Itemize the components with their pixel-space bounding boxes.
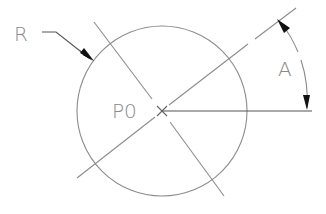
center-point-label: P0 <box>112 99 137 123</box>
angle-arrow-top-icon <box>277 19 290 33</box>
angle-label: A <box>278 57 292 81</box>
radius-label: R <box>14 22 28 46</box>
diagonal-axis-line <box>77 8 296 178</box>
diagram-canvas: R P0 A <box>0 0 326 214</box>
radius-arrowhead-icon <box>80 48 94 61</box>
angle-arrow-bottom-icon <box>303 95 310 110</box>
